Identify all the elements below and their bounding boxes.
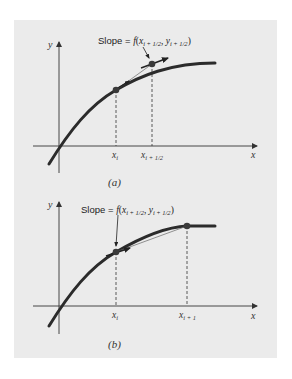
point-xi: [113, 249, 120, 256]
point-midpoint: [149, 61, 156, 68]
figure-panel-background: [14, 20, 277, 358]
y-axis-label: y: [47, 199, 53, 210]
point-xi-plus-1: [184, 223, 191, 230]
panel-caption-a: (a): [108, 176, 121, 189]
panel-caption-b: (b): [108, 338, 121, 351]
midpoint-method-figure: y x Slope = f(xi + 1/2, yi + 1/2) xi xi …: [0, 0, 292, 379]
x-axis-label: x: [250, 310, 256, 321]
point-xi: [113, 87, 120, 94]
y-axis-label: y: [47, 39, 53, 50]
x-axis-label: x: [250, 149, 256, 160]
